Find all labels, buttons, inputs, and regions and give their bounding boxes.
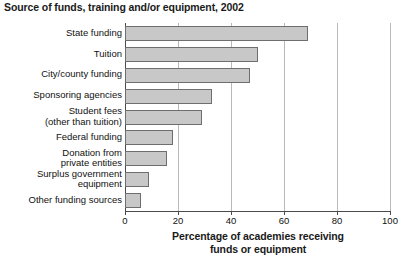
bar[interactable] [125, 89, 212, 104]
x-tick-label-0: 0 [110, 215, 140, 226]
bar[interactable] [125, 47, 258, 62]
bar[interactable] [125, 110, 202, 125]
gridline-60 [284, 23, 285, 211]
x-tick-label-60: 60 [269, 215, 299, 226]
category-label: Federal funding [2, 132, 122, 143]
x-axis-title: Percentage of academies receiving funds … [118, 230, 398, 256]
x-axis-title-line1: Percentage of academies receiving [118, 230, 398, 243]
plot-area [125, 23, 390, 211]
x-tick-label-40: 40 [216, 215, 246, 226]
bar[interactable] [125, 68, 250, 83]
category-label: Sponsoring agencies [2, 90, 122, 101]
x-axis-line [125, 211, 391, 212]
x-axis-title-line2: funds or equipment [118, 243, 398, 256]
category-label: Tuition [2, 49, 122, 60]
x-tick-label-80: 80 [322, 215, 352, 226]
bar[interactable] [125, 130, 173, 145]
bar[interactable] [125, 26, 308, 41]
x-tick-label-100: 100 [375, 215, 405, 226]
category-label: Other funding sources [2, 195, 122, 206]
category-label: Surplus government equipment [2, 169, 122, 190]
gridline-80 [337, 23, 338, 211]
category-label: City/county funding [2, 69, 122, 80]
bar[interactable] [125, 193, 141, 208]
x-tick-label-20: 20 [163, 215, 193, 226]
category-axis-labels: State fundingTuitionCity/county fundingS… [0, 23, 122, 211]
category-label: State funding [2, 28, 122, 39]
category-label: Donation from private entities [2, 148, 122, 169]
chart-title: Source of funds, training and/or equipme… [4, 1, 244, 14]
chart-figure: Source of funds, training and/or equipme… [0, 0, 408, 274]
category-label: Student fees (other than tuition) [2, 106, 122, 127]
bar[interactable] [125, 151, 167, 166]
bar[interactable] [125, 172, 149, 187]
gridline-100 [390, 23, 391, 211]
